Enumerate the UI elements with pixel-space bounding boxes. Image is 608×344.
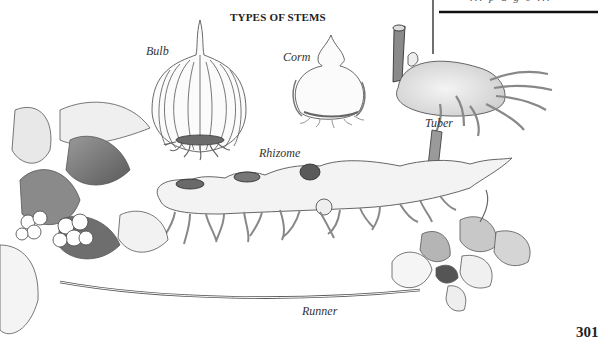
runner-drawing	[60, 282, 420, 298]
label-rhizome: Rhizome	[259, 146, 300, 161]
label-corm: Corm	[283, 50, 310, 65]
tuber-drawing	[393, 25, 552, 136]
strawberry-plant-drawing	[0, 102, 168, 334]
label-runner: Runner	[302, 304, 337, 319]
label-tuber: Tuber	[425, 116, 453, 131]
runner-plantlet-drawing	[392, 190, 530, 311]
corm-drawing	[293, 35, 365, 128]
bulb-drawing	[152, 20, 246, 160]
figure-title: TYPES OF STEMS	[230, 11, 326, 23]
page-number: 301	[576, 324, 599, 341]
sidebar-box-frame	[433, 0, 598, 54]
label-bulb: Bulb	[146, 44, 169, 59]
sidebar-box-cut-text: ... p a g e ...	[470, 0, 552, 3]
